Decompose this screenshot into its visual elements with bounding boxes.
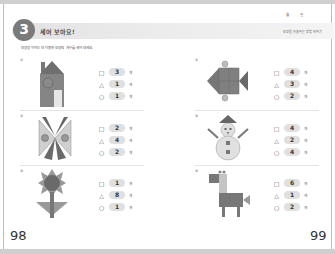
textbook-spread: 3 세어 보아요! 모양을 이어는 데 이용한 모양의 개수를 세어 보세요. … [0,0,335,254]
answer-group: □2개 △4개 ○2개 [97,122,132,158]
square-count[interactable]: 1 [109,179,125,187]
answer-group: □3개 △1개 ○1개 [97,66,132,102]
circle-icon: ○ [97,93,106,100]
instruction-text: 모양을 이어는 데 이용한 모양의 개수를 세어 보세요. [21,45,93,50]
square-icon: □ [97,69,106,76]
problem-number: ④ [195,58,198,62]
square-icon: □ [97,125,106,132]
problem-1: ① □3개 △1개 ○1개 [20,58,170,110]
triangle-count[interactable]: 2 [284,136,300,144]
answer-group: □6개 △1개 ○2개 [272,177,307,213]
triangle-icon: △ [272,192,281,199]
circle-count[interactable]: 2 [109,148,125,156]
triangle-icon: △ [272,81,281,88]
problem-4: ④ □4개 △3개 ○2개 [195,58,335,110]
square-icon: □ [272,69,281,76]
giraffe-figure-icon [203,169,258,221]
snowman-figure-icon [203,114,258,166]
day-label: 일 [300,13,303,17]
circle-icon: ○ [97,204,106,211]
circle-count[interactable]: 1 [109,92,125,100]
bottom-border [0,249,335,254]
section-title: 세어 보아요! [40,27,75,36]
triangle-count[interactable]: 4 [109,136,125,144]
circle-icon: ○ [272,93,281,100]
divider [20,110,144,111]
circle-count[interactable]: 4 [284,148,300,156]
square-icon: □ [272,125,281,132]
triangle-icon: △ [97,192,106,199]
square-icon: □ [272,180,281,187]
top-border [0,0,335,4]
problem-3: ③ □1개 △8개 ○1개 [20,169,170,221]
circle-icon: ○ [272,204,281,211]
problem-6: ⑥ □6개 △1개 ○2개 [195,169,335,221]
triangle-icon: △ [97,137,106,144]
square-count[interactable]: 2 [109,124,125,132]
page-number-left: 98 [10,228,27,243]
circle-count[interactable]: 2 [284,203,300,211]
problem-number: ① [20,58,23,62]
unit-badge: 3 [13,19,35,41]
problem-number: ⑥ [195,169,198,173]
square-count[interactable]: 3 [109,68,125,76]
left-page-edge [3,4,4,249]
triangle-icon: △ [272,137,281,144]
square-count[interactable]: 4 [284,68,300,76]
answer-group: □4개 △2개 ○4개 [272,122,307,158]
triangle-count[interactable]: 1 [284,191,300,199]
square-count[interactable]: 6 [284,179,300,187]
lesson-subtitle: 모양을 이용하는 방법 익히기 [283,30,322,34]
square-count[interactable]: 4 [284,124,300,132]
triangle-icon: △ [97,81,106,88]
circle-count[interactable]: 2 [284,92,300,100]
problem-5: ⑤ □4개 △2개 ○4개 [195,114,335,166]
answer-group: □1개 △8개 ○1개 [97,177,132,213]
problem-number: ② [20,114,23,118]
page-number-right: 99 [310,228,327,243]
problem-number: ⑤ [195,114,198,118]
circle-count[interactable]: 1 [109,203,125,211]
problem-2: ② □2개 △4개 ○2개 [20,114,170,166]
bowtie-figure-icon [30,114,80,166]
divider [195,165,319,166]
date-labels: 월 일 [286,12,313,17]
divider [20,165,144,166]
square-icon: □ [97,180,106,187]
circle-icon: ○ [272,149,281,156]
problem-number: ③ [20,169,23,173]
triangle-count[interactable]: 1 [109,80,125,88]
house-figure-icon [30,58,80,110]
triangle-count[interactable]: 3 [284,80,300,88]
flower-figure-icon [30,169,80,221]
answer-group: □4개 △3개 ○2개 [272,66,307,102]
triangle-count[interactable]: 8 [109,191,125,199]
divider [195,110,319,111]
circle-icon: ○ [97,149,106,156]
month-label: 월 [286,13,289,17]
fish-figure-icon [203,58,258,110]
